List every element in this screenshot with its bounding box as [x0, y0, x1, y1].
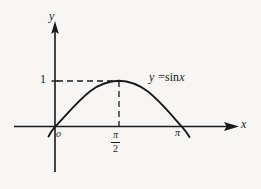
x-tick-label-pi-over-two: π 2	[111, 130, 120, 154]
fraction-numerator-pi: π	[111, 130, 120, 141]
y-axis-label: y	[49, 10, 54, 22]
sine-curve	[49, 81, 190, 137]
figure-canvas	[0, 0, 261, 189]
origin-label: o	[56, 129, 61, 139]
fraction-denominator-two: 2	[111, 144, 120, 155]
y-tick-label-one: 1	[40, 73, 46, 85]
x-axis-label: x	[241, 118, 246, 130]
equation-argument: x	[179, 70, 184, 84]
equation-equals-sign: =	[154, 70, 165, 84]
x-tick-label-pi: π	[175, 128, 180, 138]
equation-function-name: sin	[165, 70, 179, 84]
sine-function-figure: y x o 1 π π 2 y=sinx	[0, 0, 261, 189]
curve-equation-label: y=sinx	[149, 71, 184, 83]
